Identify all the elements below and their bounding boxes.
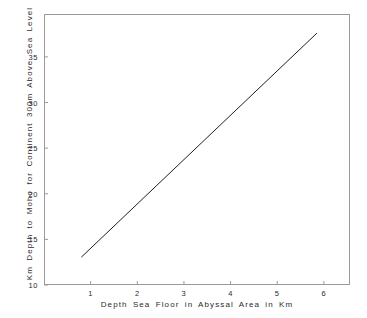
x-tick-label: 2 xyxy=(135,289,140,298)
x-tick-label: 3 xyxy=(182,289,187,298)
chart-figure: 123456 101520253035 Depth Sea Floor in A… xyxy=(0,0,367,318)
x-tick-label: 6 xyxy=(321,289,326,298)
x-axis-title: Depth Sea Floor in Abyssal Area in Km xyxy=(44,300,350,309)
x-tick-label: 1 xyxy=(88,289,93,298)
plot-area-frame xyxy=(44,14,350,285)
x-tick-label: 4 xyxy=(228,289,233,298)
y-axis-title: Km Depth to Moho for Continent 300m Abov… xyxy=(25,4,34,284)
x-tick-label: 5 xyxy=(275,289,280,298)
